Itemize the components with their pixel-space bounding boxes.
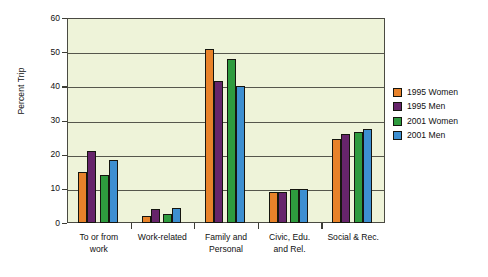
- y-axis-tick-label: 20: [38, 150, 60, 159]
- legend-label: 2001 Men: [407, 131, 445, 140]
- x-axis-tick-labels: To or fromworkWork-relatedFamily andPers…: [67, 232, 385, 272]
- bar: [332, 139, 341, 223]
- legend-swatch: [393, 88, 402, 97]
- legend: 1995 Women1995 Men2001 Women2001 Men: [393, 85, 485, 143]
- legend-item: 1995 Men: [393, 100, 485, 115]
- bar: [100, 175, 109, 223]
- bar-group: [131, 18, 195, 223]
- x-axis-tick-label-line: work: [59, 244, 139, 256]
- bar: [172, 208, 181, 223]
- bars-layer: [67, 18, 385, 223]
- bar: [87, 151, 96, 223]
- bar: [290, 189, 299, 223]
- bar: [278, 192, 287, 223]
- y-axis-tick-label: 50: [38, 48, 60, 57]
- y-axis-tick-label: 60: [38, 14, 60, 23]
- bar: [269, 192, 278, 223]
- bar: [205, 49, 214, 223]
- legend-item: 2001 Men: [393, 129, 485, 144]
- y-axis-tick-label: 40: [38, 82, 60, 91]
- bar: [363, 129, 372, 223]
- bar-group: [321, 18, 385, 223]
- bar-group: [67, 18, 131, 223]
- bar: [109, 160, 118, 223]
- y-axis-tick-label: 30: [38, 116, 60, 125]
- x-axis-tick-label-line: and Rel.: [250, 244, 330, 256]
- legend-item: 2001 Women: [393, 114, 485, 129]
- y-axis-tick-label: 0: [38, 219, 60, 228]
- legend-swatch: [393, 102, 402, 111]
- legend-label: 1995 Women: [407, 88, 458, 97]
- bar-group: [258, 18, 322, 223]
- bar: [151, 209, 160, 223]
- bar: [354, 132, 363, 223]
- x-axis-tick-mark: [258, 223, 259, 229]
- x-axis-tick-mark: [194, 223, 195, 229]
- legend-swatch: [393, 117, 402, 126]
- y-axis-tick-labels: 0102030405060: [38, 18, 60, 223]
- bar: [299, 189, 308, 223]
- bar: [341, 134, 350, 223]
- legend-label: 2001 Women: [407, 117, 458, 126]
- bar-chart: Percent Trip 0102030405060 To or fromwor…: [0, 0, 488, 277]
- y-axis-tick-label: 10: [38, 184, 60, 193]
- bar: [236, 86, 245, 223]
- bar: [214, 81, 223, 223]
- x-axis-tick-mark: [131, 223, 132, 229]
- bar: [227, 59, 236, 223]
- x-axis-tick-label: Social & Rec.: [313, 232, 393, 244]
- legend-swatch: [393, 131, 402, 140]
- x-axis-tick-mark: [321, 223, 322, 229]
- x-axis-tick-label-line: Social & Rec.: [313, 232, 393, 244]
- legend-item: 1995 Women: [393, 85, 485, 100]
- bar: [78, 172, 87, 223]
- bar: [163, 214, 172, 223]
- bar-group: [194, 18, 258, 223]
- x-axis-tick-marks: [67, 223, 385, 230]
- legend-label: 1995 Men: [407, 102, 445, 111]
- bar: [142, 216, 151, 223]
